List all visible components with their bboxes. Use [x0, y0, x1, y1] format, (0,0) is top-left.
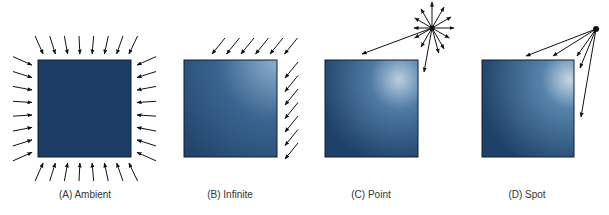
label-point: (C) Point: [311, 189, 431, 200]
ambient-arrow: [137, 86, 156, 90]
ambient-arrow: [129, 36, 138, 54]
ambient-arrow: [13, 72, 32, 78]
ambient-arrow: [104, 163, 108, 181]
ambient-arrow: [13, 152, 32, 160]
label-infinite: (B) Infinite: [170, 189, 290, 200]
infinite-arrow: [285, 116, 298, 132]
panel-point: [325, 2, 454, 157]
spot-ray: [526, 29, 596, 56]
ambient-arrow: [117, 163, 123, 181]
infinite-square: [184, 60, 277, 157]
point-ray: [362, 28, 432, 54]
ambient-arrow: [129, 163, 138, 181]
ambient-arrow: [92, 163, 93, 181]
infinite-arrow: [227, 38, 240, 54]
ambient-arrow: [13, 115, 32, 116]
point-light-source: [430, 26, 435, 31]
ambient-arrow: [64, 36, 67, 54]
ambient-arrow: [35, 163, 43, 181]
ambient-arrow: [137, 127, 156, 131]
panel-infinite: [184, 38, 298, 159]
lighting-diagram: [0, 0, 609, 215]
spot-light-source: [593, 26, 599, 32]
point-square: [325, 60, 418, 157]
infinite-arrow: [285, 62, 298, 78]
infinite-arrow: [285, 76, 298, 92]
ambient-arrow: [137, 101, 156, 102]
label-ambient: (A) Ambient: [25, 189, 145, 200]
ambient-arrow: [137, 115, 156, 116]
infinite-arrow: [285, 143, 298, 159]
panel-spot: [482, 26, 599, 157]
ambient-arrow: [117, 36, 123, 54]
infinite-arrow: [241, 38, 254, 54]
spot-ray: [553, 29, 596, 56]
ambient-arrow: [79, 163, 80, 181]
ambient-arrow: [13, 101, 32, 102]
infinite-arrow: [212, 38, 225, 54]
ambient-arrow: [13, 127, 32, 131]
ambient-arrow: [92, 36, 93, 54]
ambient-arrow: [64, 163, 67, 181]
ambient-arrow: [79, 36, 80, 54]
ambient-arrow: [104, 36, 108, 54]
ambient-arrow: [13, 140, 32, 146]
ambient-arrow: [137, 72, 156, 78]
ambient-arrow: [35, 36, 43, 54]
infinite-arrow: [285, 130, 298, 146]
spot-square: [482, 60, 574, 157]
spot-ray: [581, 29, 596, 117]
infinite-arrow: [285, 38, 298, 54]
infinite-arrow: [256, 38, 269, 54]
infinite-arrow: [285, 103, 298, 119]
ambient-arrow: [13, 57, 32, 65]
ambient-square: [38, 60, 131, 157]
ambient-arrow: [137, 152, 156, 160]
panel-ambient: [13, 36, 156, 181]
ambient-arrow: [50, 36, 56, 54]
infinite-arrow: [285, 89, 298, 105]
infinite-arrow: [270, 38, 283, 54]
ambient-arrow: [13, 86, 32, 90]
label-spot: (D) Spot: [467, 189, 587, 200]
ambient-arrow: [137, 140, 156, 146]
ambient-arrow: [137, 57, 156, 65]
ambient-arrow: [50, 163, 56, 181]
